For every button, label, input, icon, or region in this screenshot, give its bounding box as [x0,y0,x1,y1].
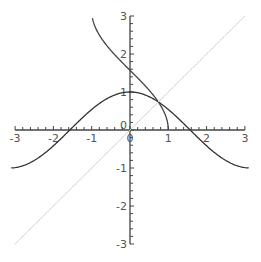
x-tick-label: -3 [10,132,21,145]
chart: -3-2-10123-3-2-10123 [0,0,261,262]
y-tick-label: -1 [116,162,127,175]
x-tick-label: 1 [165,132,172,145]
x-tick-label: 0 [127,132,134,145]
x-tick-label: -1 [86,132,97,145]
y-tick-label: 0 [120,119,127,132]
y-tick-label: 3 [120,10,127,23]
y-tick-label: -2 [116,200,127,213]
y-tick-label: 2 [120,48,127,61]
y-tick-label: -3 [116,238,127,251]
x-tick-label: 3 [241,132,248,145]
